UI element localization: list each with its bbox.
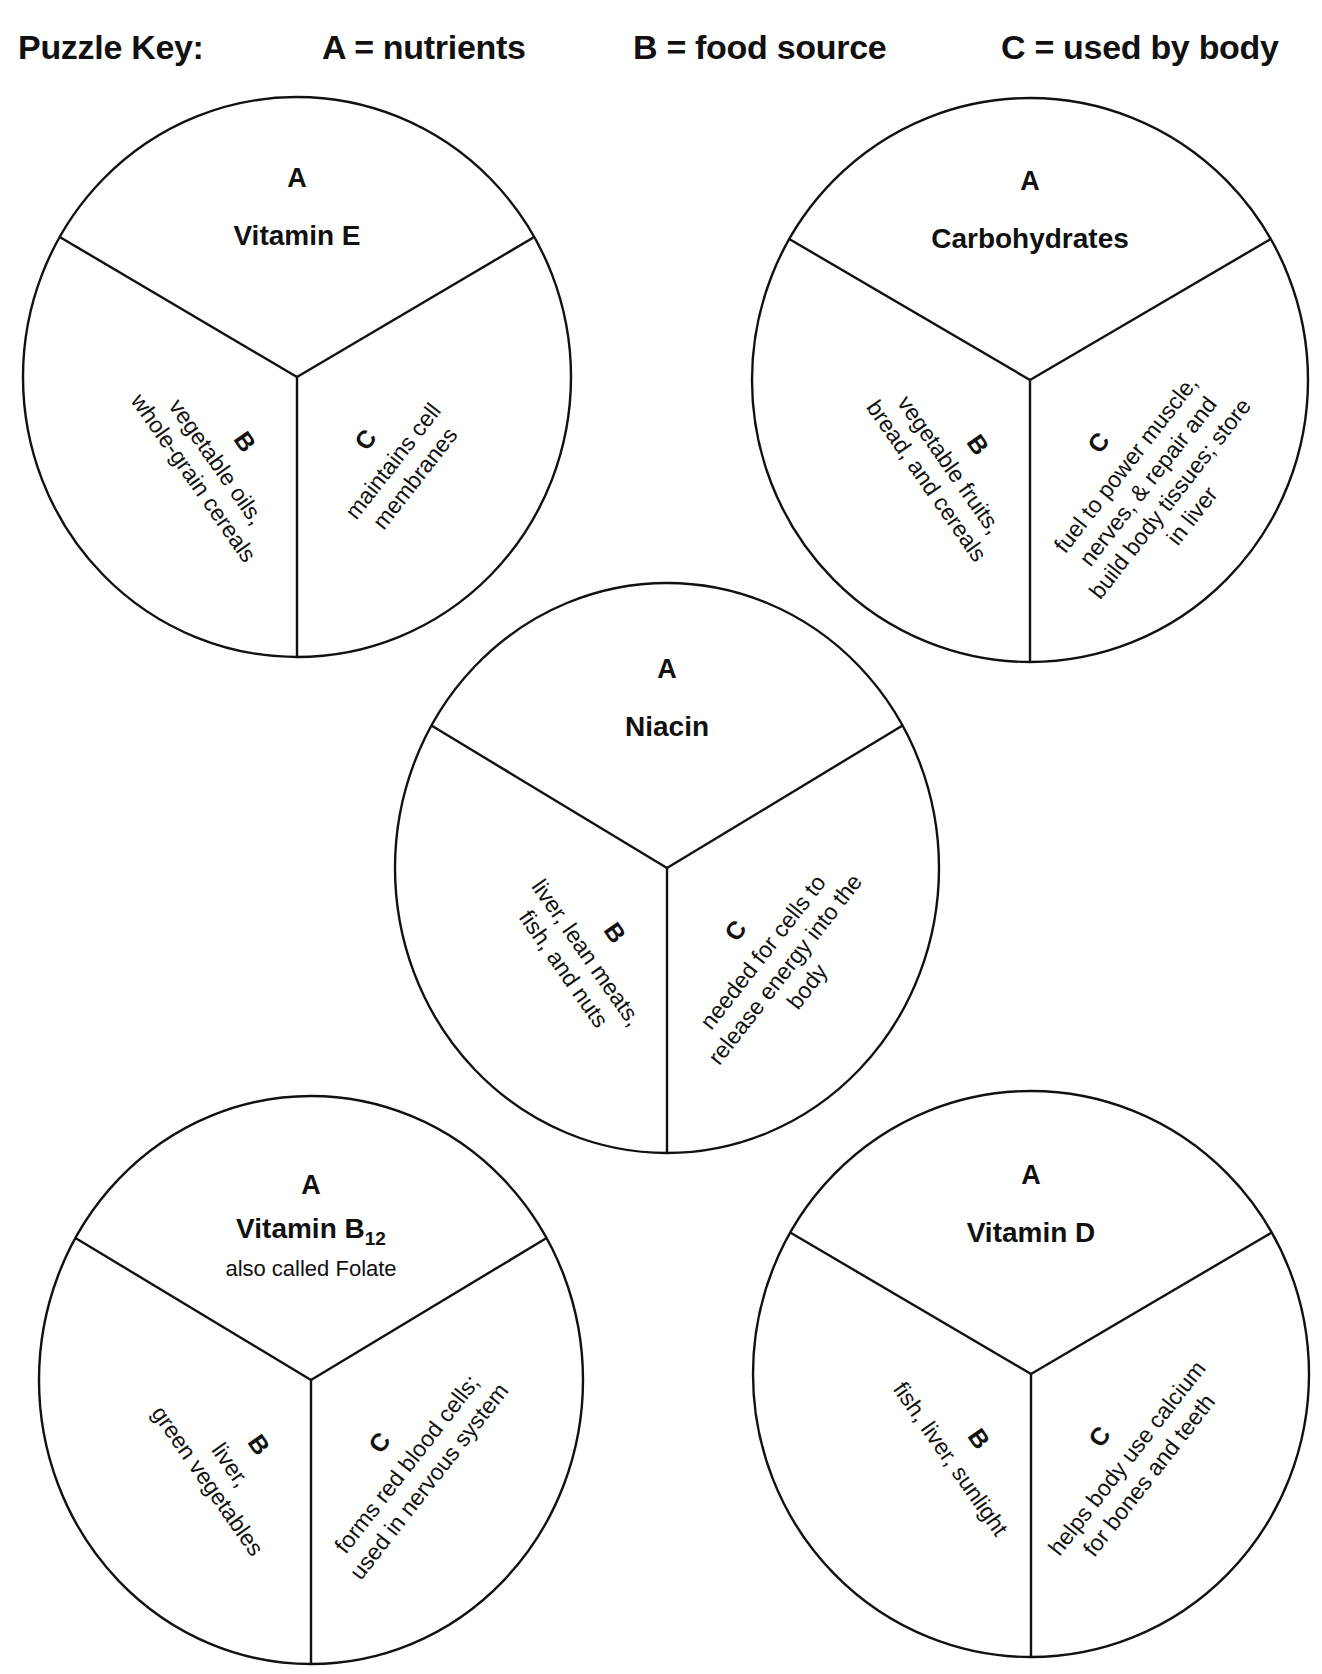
nutrient-name: Vitamin B12 (236, 1213, 386, 1249)
section-a-label: A (301, 1170, 321, 1200)
divider-line (1031, 1233, 1272, 1375)
section-c-label: C (719, 915, 752, 946)
divider-line (60, 237, 297, 377)
section-b: Bliver,green vegetables (147, 1364, 322, 1560)
section-a-label: A (1021, 1160, 1041, 1190)
nutrient-note: also called Folate (225, 1256, 396, 1281)
food-source-text: fish, liver, sunlight (888, 1377, 1014, 1541)
divider-line (667, 726, 903, 869)
nutrient-circle-vitamin-e: AVitamin EBvegetable oils,whole-grain ce… (23, 97, 571, 657)
divider-line (790, 1233, 1031, 1375)
nutrient-name: Vitamin E (233, 220, 360, 251)
section-c: Chelps body use calciumfor bones and tee… (1015, 1334, 1233, 1578)
section-c: Cneeded for cells torelease energy into … (652, 830, 889, 1087)
section-b-label: B (963, 1423, 996, 1454)
nutrient-name: Vitamin D (967, 1217, 1096, 1248)
section-b: Bvegetable oils,whole-grain cereals (125, 351, 314, 567)
section-c-label: C (1082, 427, 1115, 458)
section-c-label: C (363, 1427, 396, 1458)
section-c-label: C (349, 424, 382, 455)
nutrient-circle-carbohydrates: ACarbohydratesBvegetable fruits,bread, a… (752, 98, 1308, 662)
divider-line (789, 239, 1030, 380)
section-c-label: C (1083, 1421, 1116, 1452)
section-b-label: B (962, 429, 995, 460)
divider-line (431, 726, 667, 869)
body-use-text: used in nervous system (344, 1378, 513, 1584)
divider-line (297, 237, 534, 377)
section-b-label: B (229, 426, 262, 457)
section-c: Cfuel to power muscle,nerves, & repair a… (1011, 337, 1278, 621)
nutrient-puzzle-diagram: AVitamin EBvegetable oils,whole-grain ce… (0, 0, 1322, 1674)
section-a-label: A (1020, 166, 1040, 196)
section-b: Bfish, liver, sunlight (888, 1356, 1043, 1541)
section-b: Bliver, lean meats,fish, and nuts (504, 854, 677, 1047)
section-b-label: B (599, 917, 632, 948)
body-use-text: helps body use calcium (1043, 1356, 1211, 1560)
nutrient-subscript: 12 (365, 1228, 386, 1249)
nutrient-name: Carbohydrates (931, 223, 1129, 254)
section-a-label: A (657, 654, 677, 684)
body-use-text: release energy into the (703, 869, 868, 1069)
section-c: Cforms red blood cells;used in nervous s… (294, 1339, 514, 1585)
section-a-label: A (287, 163, 307, 193)
nutrient-circle-niacin: ANiacinBliver, lean meats,fish, and nuts… (395, 583, 939, 1153)
section-b-label: B (243, 1429, 276, 1460)
nutrient-circle-vitamin-b12: AVitamin B12also called FolateBliver,gre… (39, 1096, 583, 1664)
divider-line (1030, 239, 1271, 380)
section-c: Cmaintains cellmembranes (311, 376, 468, 541)
section-b: Bvegetable fruits,bread, and cereals (862, 359, 1045, 567)
food-source-text: green vegetables (147, 1401, 270, 1560)
nutrient-circle-vitamin-d: AVitamin DBfish, liver, sunlightChelps b… (753, 1091, 1309, 1657)
nutrient-name: Niacin (625, 711, 709, 742)
